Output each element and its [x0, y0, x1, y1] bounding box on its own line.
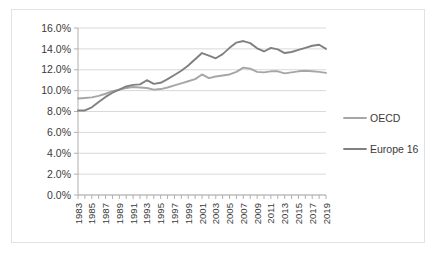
x-axis-tick-label: 2009	[252, 203, 263, 224]
x-axis-tick-label: 2003	[210, 203, 221, 224]
series-line-oecd	[78, 68, 326, 99]
x-axis-tick-label: 2007	[238, 203, 249, 224]
x-axis-tick-label: 2013	[279, 203, 290, 224]
x-axis-tick-label: 2011	[265, 203, 276, 224]
x-axis-tick-label: 1991	[128, 203, 139, 224]
y-axis-tick-label: 12.0%	[41, 63, 71, 75]
y-axis-tick-label: 10.0%	[41, 84, 71, 96]
y-axis-tick-label: 16.0%	[41, 22, 71, 34]
series-line-europe-16	[78, 41, 326, 110]
y-axis-tick-label: 8.0%	[47, 105, 71, 117]
x-axis-tick-label: 1995	[155, 203, 166, 224]
x-axis-tick-label: 1983	[73, 203, 84, 224]
x-axis-tick-label: 1997	[169, 203, 180, 224]
y-axis-tick-label: 2.0%	[47, 168, 71, 180]
plot-area: 16.0%14.0%12.0%10.0%8.0%6.0%4.0%2.0%0.0%…	[12, 10, 426, 244]
x-axis-tick-label: 1993	[141, 203, 152, 224]
chart-container: 16.0%14.0%12.0%10.0%8.0%6.0%4.0%2.0%0.0%…	[11, 9, 425, 243]
x-axis-tick-label: 1989	[114, 203, 125, 224]
y-axis-tick-label: 6.0%	[47, 126, 71, 138]
x-axis-tick-label: 1987	[100, 203, 111, 224]
y-axis-tick-label: 0.0%	[47, 189, 71, 201]
x-axis-tick-label: 1999	[183, 203, 194, 224]
y-axis-tick-label: 4.0%	[47, 147, 71, 159]
y-axis-tick-label: 14.0%	[41, 43, 71, 55]
x-axis-tick-label: 2019	[321, 203, 332, 224]
line-chart: 16.0%14.0%12.0%10.0%8.0%6.0%4.0%2.0%0.0%…	[12, 10, 426, 244]
x-axis-tick-label: 2001	[197, 203, 208, 224]
x-axis-tick-label: 2017	[307, 203, 318, 224]
x-axis-tick-label: 2005	[224, 203, 235, 224]
legend-label-europe-16: Europe 16	[370, 143, 419, 155]
legend-label-oecd: OECD	[370, 112, 401, 124]
x-axis-tick-label: 2015	[293, 203, 304, 224]
x-axis-tick-label: 1985	[86, 203, 97, 224]
